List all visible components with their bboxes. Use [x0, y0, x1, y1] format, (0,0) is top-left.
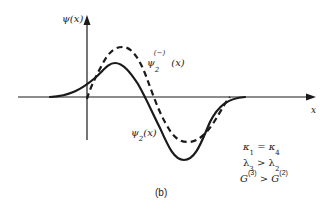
condition-lambda: λ3 > λ2: [243, 158, 279, 168]
panel-label-text: (b): [155, 187, 167, 198]
x-axis-label: x: [311, 106, 316, 115]
y-axis-arrow-icon: [84, 15, 91, 25]
condition-G: G(3) > G(2): [240, 174, 288, 184]
equals-sign: =: [254, 141, 269, 152]
x-arg: (x): [171, 57, 184, 68]
lambda-symbol: λ: [269, 157, 275, 168]
solid-curve-psi2: [50, 63, 245, 160]
dashed-curve-label: ψ2(−)(x): [147, 58, 185, 68]
subscript-2: 2: [155, 66, 159, 74]
G-symbol: G: [240, 173, 248, 184]
y-axis-label: ψ(x): [62, 14, 83, 24]
condition-kappa: κ1 = κ4: [243, 142, 280, 152]
panel-label: (b): [155, 188, 167, 198]
kappa-symbol: κ: [243, 141, 250, 152]
subscript-4: 4: [275, 149, 279, 157]
psi-symbol: ψ: [131, 127, 139, 138]
superscript-3: (3): [248, 169, 257, 176]
psi-symbol: ψ: [147, 57, 155, 68]
x-symbol: x: [311, 105, 316, 115]
x-arg: (x): [70, 13, 83, 24]
x-arg: (x): [143, 127, 156, 138]
x-axis-arrow-icon: [306, 94, 316, 101]
solid-curve-label: ψ2(x): [131, 128, 157, 138]
subscript-1: 1: [250, 149, 254, 157]
greater-than-sign: >: [257, 173, 272, 184]
greater-than-sign: >: [254, 157, 269, 168]
psi-symbol: ψ: [62, 13, 70, 24]
subscript-2: 2: [139, 135, 143, 143]
superscript-2: (2): [279, 169, 288, 176]
